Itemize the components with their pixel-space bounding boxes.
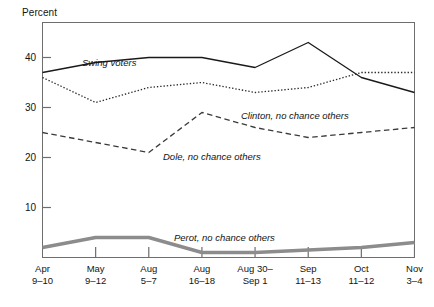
y-tick-label-10: 10 bbox=[12, 202, 36, 213]
y-axis-title: Percent bbox=[22, 7, 57, 18]
x-tick-label-line1: Nov bbox=[377, 263, 434, 275]
series-line-dole-no-chance-others bbox=[43, 113, 415, 153]
series-lines bbox=[43, 43, 415, 253]
series-label-perot-no-chance-others: Perot, no chance others bbox=[174, 232, 275, 243]
series-label-dole-no-chance-others: Dole, no chance others bbox=[163, 151, 261, 162]
chart-container: Percent 10203040 Apr9–10May9–12Aug5–7Aug… bbox=[0, 0, 434, 307]
y-tick-label-20: 20 bbox=[12, 152, 36, 163]
series-label-clinton-no-chance-others: Clinton, no chance others bbox=[241, 110, 349, 121]
y-tick-label-40: 40 bbox=[12, 52, 36, 63]
series-line-clinton-no-chance-others bbox=[43, 73, 415, 103]
x-tick-label-line2: 3–4 bbox=[377, 275, 434, 287]
series-label-swing-voters: Swing voters bbox=[82, 57, 136, 68]
y-tick-label-30: 30 bbox=[12, 102, 36, 113]
x-tick-label-7: Nov3–4 bbox=[377, 263, 434, 286]
